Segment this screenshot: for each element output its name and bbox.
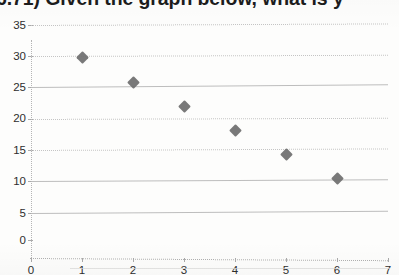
x-tick-label-4: 4	[225, 264, 245, 275]
data-point	[229, 124, 242, 137]
x-tick-label-7: 7	[378, 264, 398, 275]
y-tick-label-5: 5	[2, 207, 26, 219]
x-tick-label-0: 0	[21, 264, 41, 275]
x-tick-7	[388, 258, 389, 262]
x-tick-3	[184, 258, 185, 262]
data-point	[331, 172, 344, 185]
x-tick-label-5: 5	[276, 264, 296, 275]
data-point	[178, 100, 191, 113]
question-header: 6.71) Given the graph below, what is y	[0, 0, 399, 13]
y-tick-label-25: 25	[2, 81, 26, 93]
gridline-35	[31, 23, 388, 26]
x-tick-label-1: 1	[72, 264, 92, 275]
y-axis-labels: 35 30 25 20 15 10 5 0	[0, 18, 26, 275]
y-tick-label-20: 20	[2, 112, 26, 124]
x-tick-0	[31, 258, 32, 262]
data-point	[76, 51, 89, 64]
y-tick-label-0: 0	[2, 234, 26, 246]
x-tick-2	[133, 258, 134, 262]
y-tick-label-35: 35	[2, 19, 26, 31]
gridline-15	[31, 148, 388, 151]
y-tick-label-30: 30	[2, 50, 26, 62]
gridline-25	[31, 84, 388, 88]
x-tick-label-3: 3	[174, 264, 194, 275]
x-tick-1	[82, 258, 83, 262]
gridline-20	[31, 118, 388, 120]
x-axis	[30, 258, 388, 261]
y-tick-label-10: 10	[2, 175, 26, 187]
x-tick-6	[337, 258, 338, 262]
x-tick-5	[286, 258, 287, 262]
scatter-chart: 35 30 25 20 15 10 5 0	[0, 18, 399, 275]
gridline-5	[31, 211, 388, 214]
page-scan-artifact	[70, 268, 390, 269]
y-tick-label-15: 15	[2, 144, 26, 156]
plot-area	[31, 25, 388, 247]
x-tick-label-2: 2	[123, 264, 143, 275]
y-axis	[31, 40, 33, 262]
scanned-page: 6.71) Given the graph below, what is y 3…	[0, 0, 399, 275]
x-tick-label-6: 6	[327, 264, 347, 275]
x-tick-4	[235, 258, 236, 262]
